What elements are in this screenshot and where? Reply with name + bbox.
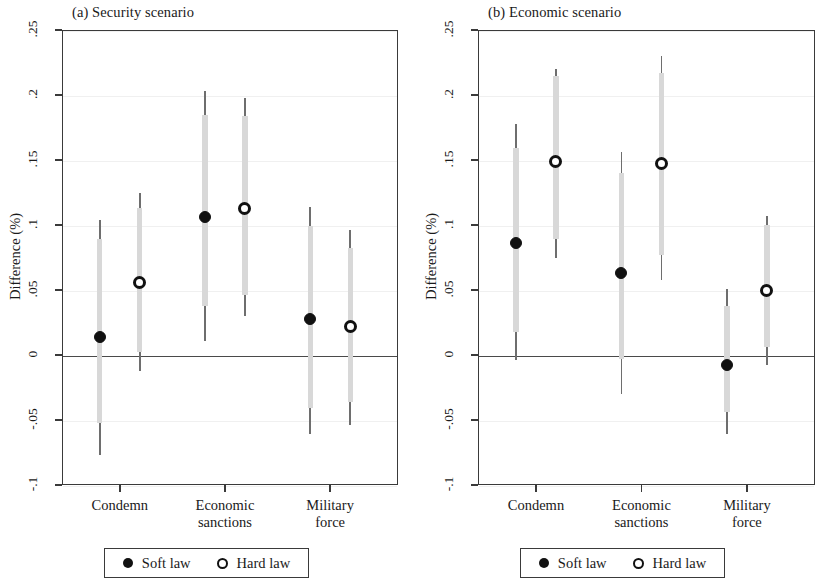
y-axis-tick-label: .15 (432, 151, 466, 167)
y-axis-tick (471, 354, 478, 356)
data-point-hard-law (238, 202, 251, 215)
panel-a-legend: Soft law Hard law (104, 548, 309, 578)
panel-b-legend: Soft law Hard law (520, 548, 725, 578)
legend-label-hard-law: Hard law (653, 555, 707, 572)
open-circle-icon (633, 558, 644, 569)
y-axis-tick (471, 224, 478, 226)
x-axis-tick-label: Military force (687, 497, 807, 530)
confidence-interval-inner (619, 173, 624, 359)
data-point-hard-law (133, 276, 146, 289)
open-circle-icon (217, 558, 228, 569)
zero-reference-line (479, 356, 814, 357)
y-axis-tick-label: .25 (16, 21, 50, 37)
y-axis-tick (55, 419, 62, 421)
legend-label-soft-law: Soft law (558, 555, 607, 572)
legend-item-soft-law: Soft law (123, 555, 191, 572)
y-axis-tick (471, 289, 478, 291)
panel-b-y-axis-title: Difference (%) (382, 248, 482, 265)
legend-label-soft-law: Soft law (142, 555, 191, 572)
y-axis-tick-label: -.05 (16, 411, 50, 427)
y-axis-tick-label: -.1 (432, 476, 466, 492)
x-axis-tick (535, 485, 537, 492)
y-axis-tick-label: 0 (16, 346, 50, 362)
figure-root: (a) Security scenario Difference (%) .25… (0, 0, 815, 579)
y-axis-tick (471, 484, 478, 486)
y-axis-tick (471, 94, 478, 96)
gridline (479, 421, 814, 422)
gridline (63, 226, 397, 227)
x-axis-tick (329, 485, 331, 492)
data-point-hard-law (760, 284, 773, 297)
y-axis-tick (55, 484, 62, 486)
x-axis-tick (746, 485, 748, 492)
y-axis-tick (471, 159, 478, 161)
y-axis-tick (471, 419, 478, 421)
y-axis-tick-label: -.1 (16, 476, 50, 492)
legend-label-hard-law: Hard law (237, 555, 291, 572)
gridline (63, 96, 397, 97)
confidence-interval-inner (202, 115, 207, 306)
gridline (63, 421, 397, 422)
data-point-soft-law (94, 331, 106, 343)
y-axis-tick-label: -.05 (432, 411, 466, 427)
data-point-hard-law (344, 320, 357, 333)
x-axis-tick (224, 485, 226, 492)
y-axis-tick (55, 94, 62, 96)
y-axis-tick-label: .1 (16, 216, 50, 232)
y-axis-tick (471, 29, 478, 31)
legend-item-soft-law: Soft law (539, 555, 607, 572)
panel-b-title: (b) Economic scenario (488, 4, 621, 21)
gridline (479, 161, 814, 162)
y-axis-tick-label: .25 (432, 21, 466, 37)
data-point-soft-law (304, 313, 316, 325)
gridline (479, 486, 814, 487)
panel-a-y-axis-title: Difference (%) (0, 248, 66, 265)
y-axis-tick-label: .1 (432, 216, 466, 232)
x-axis-tick-label: Condemn (60, 497, 180, 514)
y-axis-tick-label: .2 (432, 86, 466, 102)
gridline (479, 31, 814, 32)
y-axis-tick (55, 224, 62, 226)
filled-circle-icon (539, 558, 549, 568)
y-axis-tick-label: .2 (16, 86, 50, 102)
y-axis-tick-label: .15 (16, 151, 50, 167)
legend-item-hard-law: Hard law (217, 555, 291, 572)
y-axis-tick-label: 0 (432, 346, 466, 362)
gridline (63, 31, 397, 32)
gridline (63, 486, 397, 487)
y-axis-tick (55, 29, 62, 31)
x-axis-tick-label: Condemn (476, 497, 596, 514)
gridline (479, 96, 814, 97)
y-axis-tick (55, 354, 62, 356)
y-axis-tick-label: .05 (16, 281, 50, 297)
panel-a-title: (a) Security scenario (72, 4, 194, 21)
x-axis-tick (641, 485, 643, 492)
y-axis-tick-label: .05 (432, 281, 466, 297)
gridline (63, 161, 397, 162)
y-axis-tick (55, 159, 62, 161)
x-axis-tick (119, 485, 121, 492)
legend-item-hard-law: Hard law (633, 555, 707, 572)
y-axis-tick (55, 289, 62, 291)
x-axis-tick-label: Economic sanctions (165, 497, 285, 530)
filled-circle-icon (123, 558, 133, 568)
x-axis-tick-label: Military force (270, 497, 390, 530)
x-axis-tick-label: Economic sanctions (581, 497, 701, 530)
